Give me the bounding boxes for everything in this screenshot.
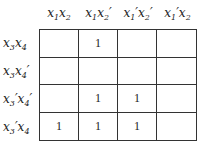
kmap-cell: 1 (79, 85, 118, 113)
row-header: x3′x4 (3, 120, 39, 136)
kmap-cell (157, 30, 196, 58)
kmap-cell (157, 58, 196, 86)
kmap-cell: 1 (118, 85, 157, 113)
kmap-cell (40, 58, 79, 86)
kmap-cell (118, 58, 157, 86)
kmap-cell: 1 (118, 113, 157, 141)
kmap-cell (40, 30, 79, 58)
kmap-cell: 1 (79, 113, 118, 141)
row-header: x3′x4′ (3, 92, 39, 108)
column-header: x1′x2 (158, 6, 198, 22)
kmap-cell (157, 85, 196, 113)
kmap-cell: 1 (40, 113, 79, 141)
column-header: x1x2 (39, 6, 79, 22)
kmap-cell (157, 113, 196, 141)
row-header: x3x4′ (3, 64, 39, 80)
column-header: x1′x2′ (118, 6, 158, 22)
kmap-cell (118, 30, 157, 58)
kmap-cell: 1 (79, 30, 118, 58)
kmap-grid: 111111 (39, 29, 197, 141)
kmap-cell (79, 58, 118, 86)
column-header: x1x2′ (79, 6, 119, 22)
kmap-cell (40, 85, 79, 113)
row-header: x3x4 (3, 36, 39, 52)
